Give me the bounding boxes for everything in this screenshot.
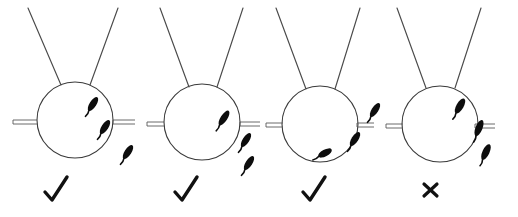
- check-icon: [45, 177, 67, 200]
- sperm-head: [479, 143, 493, 161]
- sperm-tail: [85, 110, 90, 116]
- side-rail-right: [357, 123, 374, 127]
- needle-arm-2: [90, 8, 118, 85]
- sperm-head: [121, 143, 135, 160]
- sperm-mark-2: [94, 118, 112, 141]
- sperm-tail: [473, 135, 476, 142]
- check-icon: [175, 177, 197, 200]
- cell-circle: [282, 86, 358, 162]
- sperm-tail: [367, 116, 372, 122]
- verdict-cross-panel-4: [424, 184, 437, 196]
- sperm-head: [86, 95, 100, 112]
- sperm-head: [98, 118, 112, 135]
- side-rail-left: [386, 124, 403, 128]
- diagram-canvas: [0, 0, 518, 217]
- sperm-tail: [241, 169, 246, 175]
- verdict-check-panel-2: [175, 177, 197, 200]
- check-icon: [303, 177, 325, 200]
- sperm-tail: [453, 113, 457, 120]
- verdict-check-panel-3: [303, 177, 325, 200]
- sperm-mark-3: [238, 154, 256, 176]
- sperm-head: [453, 97, 468, 115]
- needle-arm-1: [28, 8, 61, 85]
- sperm-tail: [216, 125, 221, 131]
- sperm-tail: [480, 159, 484, 166]
- sperm-mark-1: [82, 95, 100, 118]
- needle-arm-1: [397, 8, 426, 88]
- figure-root: [0, 0, 518, 217]
- cell-circle: [402, 86, 478, 162]
- verdict-check-panel-1: [45, 177, 67, 200]
- sperm-tail: [120, 158, 125, 164]
- side-rail-left: [13, 120, 37, 124]
- sperm-mark-3: [117, 143, 135, 166]
- needle-arm-2: [217, 8, 243, 87]
- sperm-head: [239, 131, 253, 148]
- panel-group-1: [13, 8, 135, 166]
- needle-arm-2: [455, 8, 481, 88]
- side-rail-left: [147, 122, 164, 126]
- sperm-mark-3: [476, 143, 492, 167]
- side-rail-left: [266, 123, 283, 127]
- cell-circle: [164, 84, 240, 160]
- sperm-mark-1: [364, 101, 382, 123]
- sperm-head: [368, 101, 382, 118]
- needle-arm-1: [276, 8, 306, 89]
- sperm-mark-2: [344, 130, 362, 153]
- sperm-head: [348, 130, 362, 147]
- sperm-head: [317, 146, 333, 159]
- sperm-head: [217, 109, 232, 127]
- sperm-tail: [238, 146, 243, 152]
- needle-arm-2: [335, 8, 360, 89]
- sperm-tail: [313, 156, 320, 160]
- panel-group-3: [266, 8, 382, 163]
- panel-group-4: [386, 8, 495, 167]
- sperm-tail: [97, 133, 102, 139]
- side-rail-right: [240, 122, 260, 126]
- side-rail-right: [113, 120, 135, 124]
- sperm-tail: [347, 145, 352, 151]
- needle-arm-1: [160, 8, 189, 87]
- sperm-mark-1: [213, 109, 232, 132]
- sperm-head: [242, 154, 256, 171]
- sperm-mark-1: [449, 97, 467, 121]
- panel-group-2: [147, 8, 260, 177]
- cell-circle: [37, 82, 113, 158]
